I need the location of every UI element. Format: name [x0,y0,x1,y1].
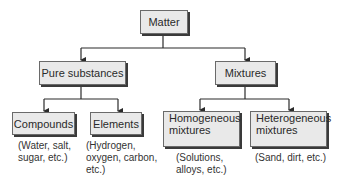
note-homogeneous: (Solutions, alloys, etc.) [176,152,227,176]
node-elements: Elements [90,112,142,135]
note-line: (Water, salt, [18,140,71,152]
node-label-line: mixtures [256,124,298,136]
node-compounds: Compounds [12,112,75,135]
note-line: sugar, etc.) [18,152,71,164]
note-line: etc.) [86,164,157,176]
node-mixtures: Mixtures [215,61,276,85]
node-pure-substances: Pure substances [39,61,126,85]
node-label-line: Heterogeneous [256,112,331,124]
note-heterogeneous: (Sand, dirt, etc.) [255,152,326,164]
note-elements: (Hydrogen, oxygen, carbon, etc.) [86,140,157,176]
node-label: Mixtures [225,67,267,79]
node-label: Pure substances [42,67,124,79]
node-label: Matter [148,16,179,28]
note-line: (Hydrogen, [86,140,157,152]
note-compounds: (Water, salt, sugar, etc.) [18,140,71,164]
note-line: (Solutions, [176,152,227,164]
node-label-line: mixtures [169,124,211,136]
node-label: Elements [93,118,139,130]
node-label: Compounds [14,118,73,130]
node-homogeneous-mixtures: Homogeneous mixtures [163,111,240,147]
node-label-line: Homogeneous [169,112,241,124]
node-heterogeneous-mixtures: Heterogeneous mixtures [250,111,327,147]
note-line: alloys, etc.) [176,164,227,176]
note-line: oxygen, carbon, [86,152,157,164]
note-line: (Sand, dirt, etc.) [255,152,326,164]
node-matter: Matter [140,10,188,34]
